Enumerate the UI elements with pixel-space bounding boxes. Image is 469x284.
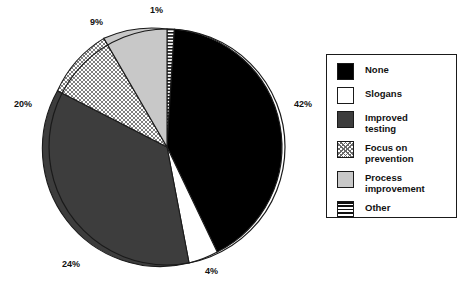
legend-item-other: Other [337, 201, 452, 218]
pie-label-slogans: 4% [205, 266, 218, 276]
cross-hatch-swatch-icon [337, 141, 354, 158]
legend-item-list: None Slogans Improved testing Focus on p… [337, 63, 452, 213]
white-swatch-icon [337, 87, 354, 104]
legend-label-slogans: Slogans [365, 87, 402, 99]
horizontal-lines-swatch-icon [337, 201, 354, 218]
dark-gray-swatch-icon [337, 111, 354, 128]
pie-label-none: 42% [294, 99, 312, 109]
pie-label-process-improvement: 9% [90, 17, 103, 27]
pie-label-improved-testing: 24% [62, 259, 80, 269]
legend-label-focus-on-prevention: Focus on prevention [365, 141, 414, 164]
legend-label-none: None [365, 63, 389, 75]
pie-label-other: 1% [150, 5, 163, 15]
legend-item-focus-on-prevention: Focus on prevention [337, 141, 452, 164]
light-gray-swatch-icon [337, 171, 354, 188]
legend-label-process-improvement: Process improvement [365, 171, 425, 194]
legend-item-none: None [337, 63, 452, 80]
black-swatch-icon [337, 63, 354, 80]
legend-label-improved-testing: Improved testing [365, 111, 408, 134]
legend-label-other: Other [365, 201, 390, 213]
pie-label-focus-on-prevention: 20% [14, 99, 32, 109]
legend-item-improved-testing: Improved testing [337, 111, 452, 134]
legend-item-slogans: Slogans [337, 87, 452, 104]
pie-chart-figure: 1% 9% 20% 24% 4% 42% None Slogans Improv… [0, 0, 469, 284]
chart-legend: None Slogans Improved testing Focus on p… [326, 54, 457, 218]
legend-item-process-improvement: Process improvement [337, 171, 452, 194]
